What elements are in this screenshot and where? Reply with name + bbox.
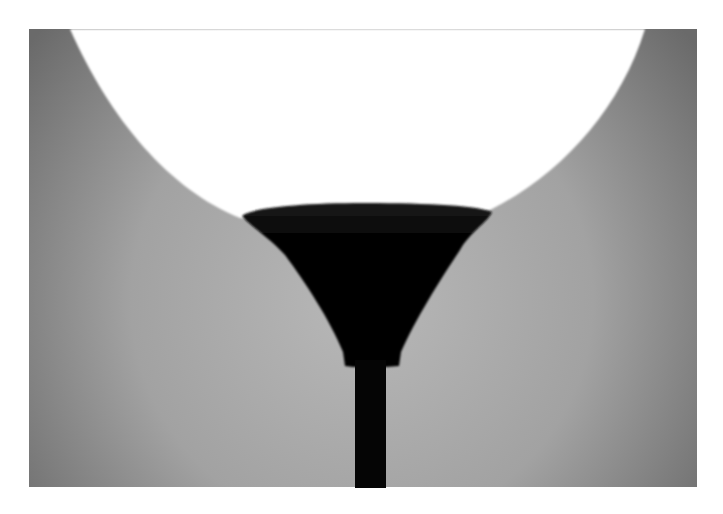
lamp-photo — [0, 0, 723, 514]
lamp-stem — [355, 360, 386, 488]
